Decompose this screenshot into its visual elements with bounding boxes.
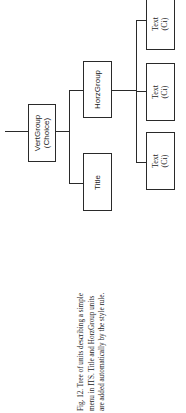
node-label-line2: (Ci): [160, 17, 169, 31]
root-edge: [5, 131, 28, 132]
node-horzgroup: HorzGroup: [83, 61, 112, 118]
node-label: Title: [93, 175, 102, 190]
node-vertgroup-choice: VertGroup (Choice): [28, 104, 56, 162]
node-text-ci-1: Text (Ci): [146, 0, 175, 50]
edge-to-text-3: [136, 162, 146, 163]
node-label: Text (Ci): [151, 154, 169, 168]
edge-to-text-2: [136, 91, 146, 92]
node-label-line2: (Ci): [160, 85, 169, 99]
node-label: VertGroup (Choice): [33, 115, 51, 151]
node-label-line1: VertGroup: [33, 115, 42, 151]
caption-line-2: menu in ITS. Title and HorzGroup units: [87, 239, 98, 411]
node-label-line1: Title: [93, 175, 102, 190]
node-label: Text (Ci): [151, 17, 169, 31]
edge-vertgroup-stem: [56, 131, 70, 132]
node-label-line2: (Ci): [160, 154, 169, 168]
edge-vertgroup-spine: [69, 90, 70, 184]
node-label: HorzGroup: [93, 70, 102, 109]
caption-line-1: Fig. 12. Tree of units describing a simp…: [76, 239, 87, 411]
node-text-ci-3: Text (Ci): [146, 132, 175, 190]
edge-to-text-1: [136, 20, 146, 21]
caption-line-3: are added automatically by the style rul…: [97, 239, 108, 411]
node-title: Title: [83, 153, 112, 211]
edge-horzgroup-stem: [112, 90, 137, 91]
figure-caption: Fig. 12. Tree of units describing a simp…: [76, 239, 110, 411]
node-text-ci-2: Text (Ci): [146, 63, 175, 121]
node-label: Text (Ci): [151, 85, 169, 99]
node-label-line2: (Choice): [42, 115, 51, 151]
edge-to-horzgroup: [69, 90, 83, 91]
edge-to-title: [69, 183, 83, 184]
node-label-line1: HorzGroup: [93, 70, 102, 109]
